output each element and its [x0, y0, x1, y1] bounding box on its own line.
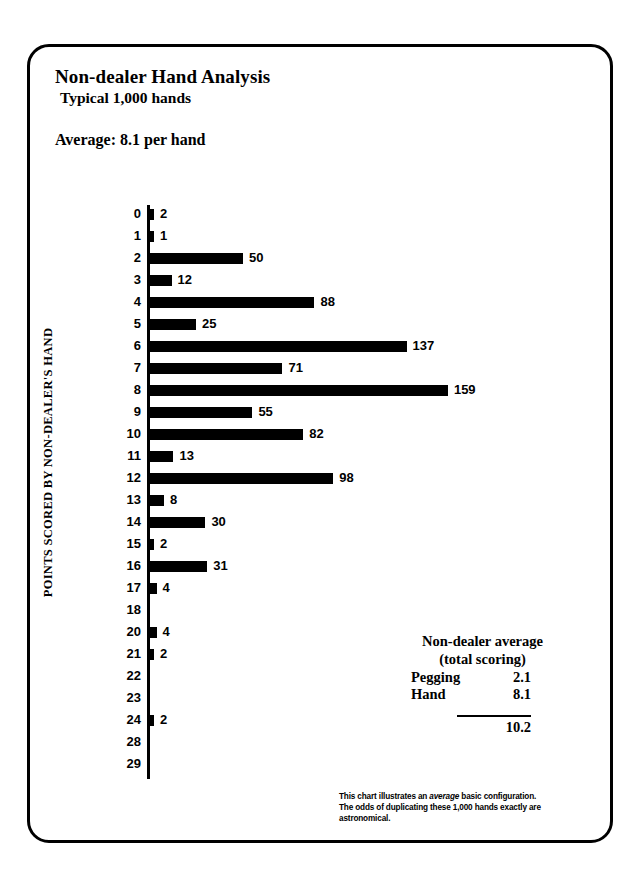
average-summary-text: Average: 8.1 per hand	[55, 131, 206, 149]
bar-value-label: 50	[249, 247, 263, 269]
bar	[149, 231, 154, 242]
bar	[149, 495, 164, 506]
bar-category-label: 13	[113, 489, 141, 511]
bar-row: 771	[113, 357, 583, 379]
bar-category-label: 4	[113, 291, 141, 313]
bar	[149, 539, 154, 550]
bar-category-label: 3	[113, 269, 141, 291]
bar-row: 02	[113, 203, 583, 225]
bar-value-label: 2	[160, 643, 167, 665]
bar-category-label: 18	[113, 599, 141, 621]
bar-row: 1113	[113, 445, 583, 467]
bar	[149, 363, 282, 374]
bar-category-label: 28	[113, 731, 141, 753]
bar-category-label: 16	[113, 555, 141, 577]
bar-category-label: 29	[113, 753, 141, 775]
bar-value-label: 98	[339, 467, 353, 489]
bar	[149, 583, 157, 594]
bar-row: 312	[113, 269, 583, 291]
bar	[149, 385, 448, 396]
bar	[149, 275, 172, 286]
bar	[149, 407, 252, 418]
bar-row: 8159	[113, 379, 583, 401]
summary-row: Pegging 2.1	[411, 669, 570, 686]
bar-category-label: 2	[113, 247, 141, 269]
bar-category-label: 22	[113, 665, 141, 687]
bar-value-label: 12	[178, 269, 192, 291]
footnote-emphasis: average	[429, 792, 459, 801]
bar	[149, 451, 173, 462]
bar-category-label: 9	[113, 401, 141, 423]
bar-row: 152	[113, 533, 583, 555]
bar	[149, 473, 333, 484]
bar-value-label: 13	[179, 445, 193, 467]
footnote-line-2: The odds of duplicating these 1,000 hand…	[339, 802, 589, 813]
bar-value-label: 31	[213, 555, 227, 577]
y-axis-label: POINTS SCORED BY NON-DEALER'S HAND	[41, 303, 56, 623]
bar-value-label: 2	[160, 709, 167, 731]
chart-header: Non-dealer Hand Analysis Typical 1,000 h…	[55, 66, 475, 107]
bar-value-label: 4	[163, 577, 170, 599]
bar-value-label: 159	[454, 379, 476, 401]
bar-category-label: 0	[113, 203, 141, 225]
bar-row: 1082	[113, 423, 583, 445]
bar-row: 6137	[113, 335, 583, 357]
bar-category-label: 6	[113, 335, 141, 357]
summary-total-value: 10.2	[489, 719, 531, 736]
bar-value-label: 2	[160, 533, 167, 555]
bar-value-label: 55	[258, 401, 272, 423]
bar-value-label: 8	[170, 489, 177, 511]
footnote-line-3: astronomical.	[339, 813, 589, 824]
bar-value-label: 137	[413, 335, 435, 357]
footnote-text-a: This chart illustrates an	[339, 792, 429, 801]
bar-value-label: 4	[163, 621, 170, 643]
summary-row: 10.2	[411, 719, 570, 736]
bar-category-label: 24	[113, 709, 141, 731]
bar-category-label: 21	[113, 643, 141, 665]
bar-value-label: 88	[320, 291, 334, 313]
bar	[149, 319, 196, 330]
bar	[149, 341, 407, 352]
summary-divider	[457, 715, 531, 717]
bar-category-label: 11	[113, 445, 141, 467]
page-subtitle: Typical 1,000 hands	[55, 88, 475, 107]
bar	[149, 627, 157, 638]
bar-value-label: 2	[160, 203, 167, 225]
bar	[149, 715, 154, 726]
bar-value-label: 1	[160, 225, 167, 247]
bar-category-label: 7	[113, 357, 141, 379]
bar-row: 1631	[113, 555, 583, 577]
bar-row: 488	[113, 291, 583, 313]
summary-row-value: 8.1	[489, 686, 531, 703]
summary-subheading: (total scoring)	[395, 650, 570, 668]
bar-category-label: 1	[113, 225, 141, 247]
summary-heading: Non-dealer average	[395, 632, 570, 650]
bar	[149, 429, 303, 440]
bar-row: 1298	[113, 467, 583, 489]
bar-value-label: 71	[288, 357, 302, 379]
bar-row: 955	[113, 401, 583, 423]
bar-category-label: 14	[113, 511, 141, 533]
footnote-text-b: basic configuration.	[459, 792, 536, 801]
bar-category-label: 15	[113, 533, 141, 555]
bar-row: 11	[113, 225, 583, 247]
chart-page: Non-dealer Hand Analysis Typical 1,000 h…	[0, 0, 643, 869]
bar-row: 18	[113, 599, 583, 621]
summary-rows: Pegging 2.1 Hand 8.1	[395, 669, 570, 703]
bar-category-label: 12	[113, 467, 141, 489]
summary-row-label: Hand	[411, 686, 489, 703]
bar-row: 138	[113, 489, 583, 511]
bar-row: 525	[113, 313, 583, 335]
bar-category-label: 10	[113, 423, 141, 445]
bar-row: 174	[113, 577, 583, 599]
bar-category-label: 5	[113, 313, 141, 335]
bar	[149, 253, 243, 264]
bar-category-label: 8	[113, 379, 141, 401]
bar-row: 250	[113, 247, 583, 269]
bar-row: 1430	[113, 511, 583, 533]
bar	[149, 209, 154, 220]
bar	[149, 649, 154, 660]
summary-total-label	[411, 719, 489, 736]
footnote-line-1: This chart illustrates an average basic …	[339, 791, 589, 802]
summary-total: 10.2	[395, 719, 570, 736]
